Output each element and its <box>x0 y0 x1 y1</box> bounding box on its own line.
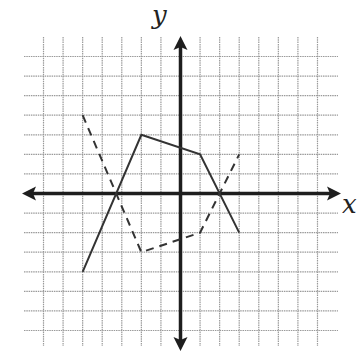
y-axis-label: y <box>152 2 167 28</box>
axes <box>22 36 341 351</box>
x-axis-label: x <box>342 191 357 217</box>
coordinate-graph <box>0 0 363 360</box>
